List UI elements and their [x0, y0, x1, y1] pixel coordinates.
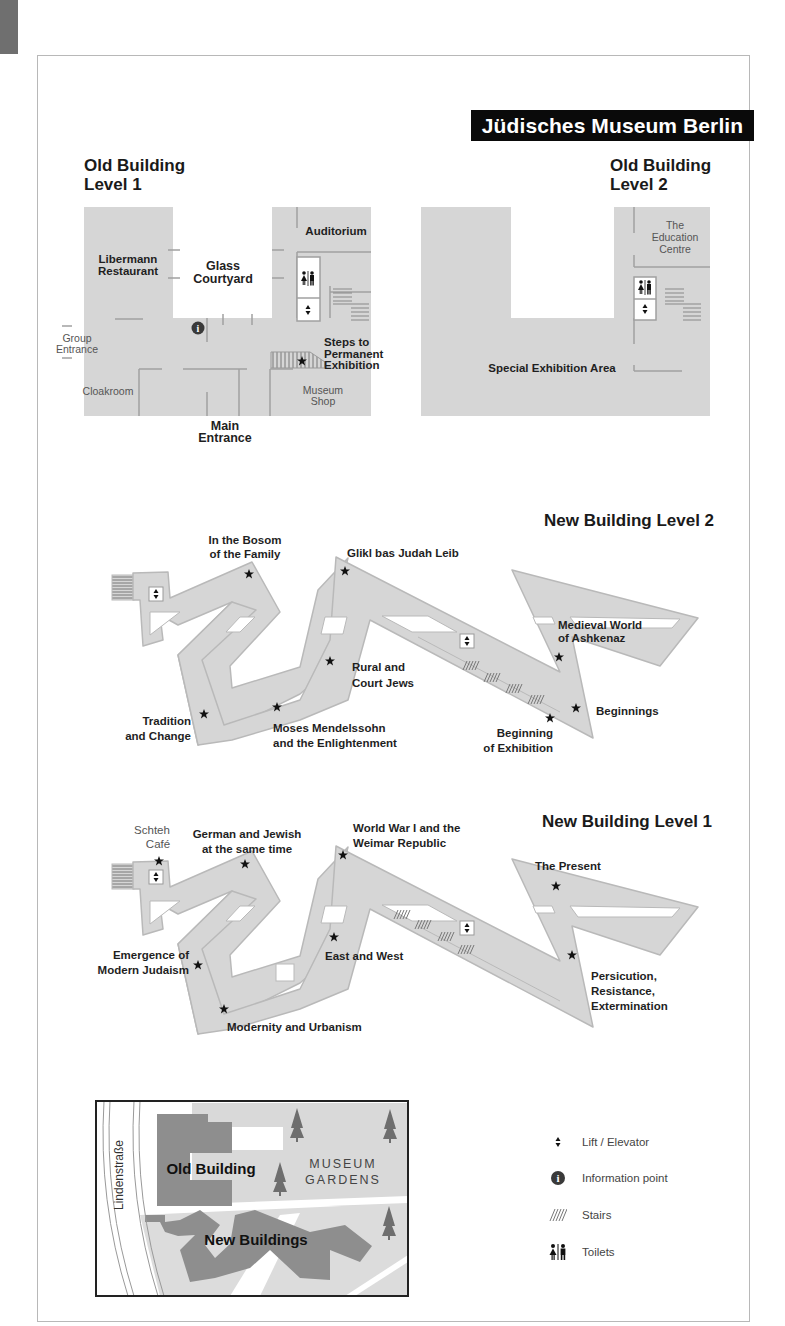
label-ww1-2: Weimar Republic — [353, 837, 447, 849]
label-steps-3: Exhibition — [324, 359, 380, 371]
label-cafe-2: Café — [146, 838, 170, 850]
lift-icon — [460, 634, 474, 648]
label-street: Lindenstraße — [112, 1140, 126, 1210]
label-steps: Steps to — [324, 336, 369, 348]
lift-icon — [460, 921, 474, 935]
old-building-l2-plan: The Education Centre Special Exhibition … — [421, 207, 710, 416]
label-main-entrance-2: Entrance — [198, 431, 252, 445]
label-bosom: In the Bosom — [209, 534, 282, 546]
label-site-new-buildings: New Buildings — [204, 1231, 307, 1248]
label-german-jewish: German and Jewish — [193, 828, 302, 840]
label-tradition-2: and Change — [125, 730, 191, 742]
label-persecution-3: Extermination — [591, 1000, 668, 1012]
site-map: Lindenstraße Old Building MUSEUM GARDENS… — [96, 1101, 408, 1296]
label-education: The — [666, 219, 684, 231]
label-medieval: Medieval World — [558, 619, 642, 631]
label-gardens: MUSEUM — [309, 1157, 377, 1171]
label-group-entrance-2: Entrance — [56, 343, 98, 355]
legend-item-info: i Information point — [540, 1166, 668, 1190]
new-building-l1-plan: Schteh Café German and Jewish at the sam… — [98, 822, 698, 1034]
label-bosom-2: of the Family — [210, 548, 282, 560]
label-education-3: Centre — [659, 243, 691, 255]
label-special-exhibition: Special Exhibition Area — [488, 362, 616, 374]
label-moses-2: and the Enlightenment — [273, 737, 397, 749]
lift-icon — [540, 1130, 576, 1154]
label-beginning-exhibition: Beginning — [497, 727, 553, 739]
label-beginnings: Beginnings — [596, 705, 659, 717]
label-moses: Moses Mendelssohn — [273, 722, 385, 734]
label-beginning-exhibition-2: of Exhibition — [483, 742, 553, 754]
label-education-2: Education — [652, 231, 699, 243]
label-modernity: Modernity and Urbanism — [227, 1021, 362, 1033]
legend-label: Lift / Elevator — [582, 1136, 649, 1148]
info-icon: i — [540, 1166, 576, 1190]
label-ww1: World War I and the — [353, 822, 460, 834]
label-present: The Present — [535, 860, 601, 872]
old-building-l1-plan: i Auditorium Libermann Restaurant Glass … — [56, 207, 384, 445]
label-tradition: Tradition — [142, 715, 191, 727]
label-medieval-2: of Ashkenaz — [558, 632, 626, 644]
label-courtyard: Glass — [206, 259, 240, 273]
info-icon: i — [192, 322, 205, 335]
label-persecution-2: Resistance, — [591, 985, 655, 997]
label-rural: Rural and — [352, 661, 405, 673]
lift-icon — [149, 587, 163, 601]
legend-label: Toilets — [582, 1246, 615, 1258]
legend-label: Information point — [582, 1172, 668, 1184]
label-restaurant-2: Restaurant — [98, 265, 158, 277]
label-german-jewish-2: at the same time — [202, 843, 292, 855]
legend-label: Stairs — [582, 1209, 611, 1221]
label-shop-2: Shop — [311, 395, 336, 407]
label-rural-2: Court Jews — [352, 677, 414, 689]
museum-map: i Auditorium Libermann Restaurant Glass … — [0, 0, 785, 1326]
label-auditorium: Auditorium — [305, 225, 366, 237]
label-cloakroom: Cloakroom — [83, 385, 134, 397]
label-glikl: Glikl bas Judah Leib — [347, 547, 459, 559]
lift-icon — [149, 870, 163, 884]
label-persecution: Persicution, — [591, 970, 657, 982]
svg-text:i: i — [556, 1172, 559, 1184]
toilets-icon — [540, 1240, 576, 1264]
svg-text:i: i — [197, 323, 200, 334]
stairs-icon — [540, 1203, 576, 1227]
label-restaurant: Libermann — [99, 253, 158, 265]
label-east-west: East and West — [325, 950, 404, 962]
new-building-l2-plan: In the Bosom of the Family Glikl bas Jud… — [112, 534, 698, 754]
label-gardens-2: GARDENS — [305, 1173, 381, 1187]
label-emergence: Emergence of — [113, 949, 189, 961]
legend-item-stairs: Stairs — [540, 1203, 611, 1227]
label-site-old-building: Old Building — [166, 1160, 255, 1177]
legend-item-toilets: Toilets — [540, 1240, 615, 1264]
legend-item-lift: Lift / Elevator — [540, 1130, 649, 1154]
label-courtyard-2: Courtyard — [193, 272, 253, 286]
label-emergence-2: Modern Judaism — [98, 964, 189, 976]
label-cafe: Schteh — [134, 824, 170, 836]
